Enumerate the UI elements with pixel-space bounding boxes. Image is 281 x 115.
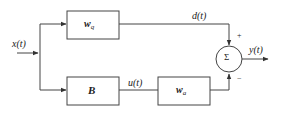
b-label: B [88,84,95,96]
input-label: x(t) [12,38,26,49]
diagram-canvas [0,0,281,115]
wa-label: wa [176,84,186,97]
u-label: u(t) [128,77,142,88]
sigma-symbol: Σ [224,52,229,62]
wq-subscript: q [91,23,95,31]
minus-sign: − [237,74,242,83]
wa-subscript: a [183,89,187,97]
wq-label: wq [84,18,94,31]
d-label: d(t) [192,10,206,21]
y-label: y(t) [249,44,263,55]
wa-symbol: w [176,84,183,95]
plus-sign: + [237,31,242,40]
wq-symbol: w [84,18,91,29]
wa-output-arrow [210,74,229,90]
